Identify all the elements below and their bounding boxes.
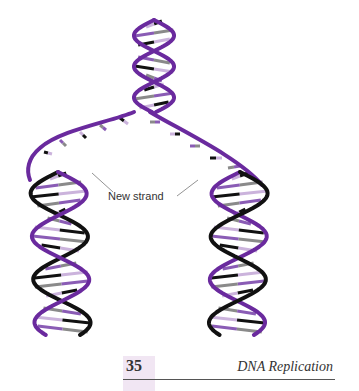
- base-pair-half: [48, 153, 52, 154]
- base-pair-half: [239, 200, 261, 203]
- base-pair-half: [60, 140, 63, 143]
- base-pair-half: [83, 135, 86, 138]
- base-pair-half: [31, 194, 59, 197]
- base-pair-half: [212, 194, 240, 197]
- base-pair-half: [135, 66, 154, 69]
- base-pair-half: [217, 185, 240, 188]
- base-pair-half: [35, 317, 63, 320]
- base-pair-half: [60, 230, 85, 233]
- base-pair-half: [211, 275, 238, 278]
- base-pair-half: [60, 239, 88, 242]
- label-leader-right: [177, 180, 198, 196]
- base-pair-half: [103, 128, 106, 131]
- dna-replication-illustration: [0, 0, 359, 345]
- new-strand-label: New strand: [108, 190, 164, 202]
- base-pair-half: [239, 239, 267, 242]
- base-pair-half: [240, 191, 268, 194]
- base-pair-half: [35, 275, 62, 278]
- base-pair-half: [212, 326, 237, 329]
- section-title: DNA Replication: [237, 359, 333, 375]
- base-pair-half: [238, 281, 265, 284]
- base-pair-half: [44, 152, 48, 153]
- base-pair-half: [237, 320, 265, 323]
- base-pair-half: [61, 281, 88, 284]
- base-pair-half: [228, 167, 234, 168]
- base-pair-half: [211, 236, 239, 239]
- base-pair-half: [135, 33, 154, 36]
- base-pair-half: [124, 121, 128, 124]
- base-pair-half: [59, 191, 87, 194]
- base-pair-half: [210, 317, 238, 320]
- base-pair-half: [32, 236, 60, 239]
- base-pair-half: [239, 230, 264, 233]
- base-pair-half: [62, 320, 90, 323]
- base-pair-half: [134, 96, 154, 99]
- base-pair-half: [59, 200, 81, 203]
- page-number: 35: [126, 357, 142, 375]
- base-pair-half: [100, 125, 103, 128]
- base-pair-half: [38, 326, 63, 329]
- base-pair-half: [63, 143, 66, 146]
- base-pair-half: [36, 185, 59, 188]
- footer-rule: [123, 379, 335, 380]
- fork-left-arm: [28, 112, 134, 180]
- base-pair-half: [80, 132, 83, 135]
